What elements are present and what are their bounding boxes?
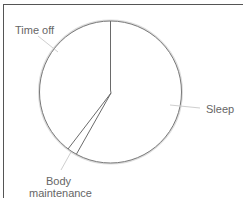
label-maintenance: maintenance <box>29 187 92 198</box>
leader-body-maintenance <box>61 152 71 170</box>
slice-divider-top <box>111 21 112 93</box>
leader-time-off <box>38 36 58 52</box>
label-time-off: Time off <box>15 24 54 36</box>
label-sleep: Sleep <box>206 103 234 115</box>
label-body: Body <box>46 175 71 187</box>
